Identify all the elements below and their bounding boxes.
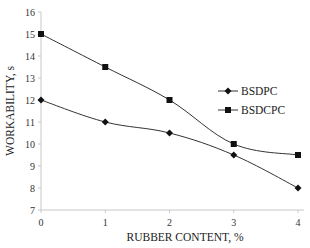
legend-item-bsdcpc: BSDCPC — [218, 104, 285, 116]
diamond-marker-icon — [295, 185, 302, 192]
square-marker-icon — [167, 97, 173, 103]
x-tick-label: 0 — [39, 217, 44, 228]
diamond-marker-icon — [38, 97, 45, 104]
square-marker-icon — [38, 31, 44, 37]
square-marker-icon — [102, 64, 108, 70]
y-axis: 78910111213141516 — [25, 7, 41, 216]
legend: BSDPCBSDCPC — [218, 85, 285, 116]
y-tick-label: 9 — [30, 161, 35, 172]
diamond-marker-icon — [166, 130, 173, 137]
legend-item-bsdpc: BSDPC — [218, 85, 278, 97]
y-tick-label: 15 — [25, 29, 35, 40]
diamond-marker-icon — [225, 88, 232, 95]
y-tick-label: 10 — [25, 139, 35, 150]
x-tick-label: 3 — [231, 217, 236, 228]
x-tick-label: 4 — [296, 217, 301, 228]
y-tick-label: 8 — [30, 183, 35, 194]
square-marker-icon — [295, 152, 301, 158]
diamond-marker-icon — [102, 119, 109, 126]
diamond-marker-icon — [230, 152, 237, 159]
legend-label: BSDCPC — [241, 104, 285, 116]
square-marker-icon — [231, 141, 237, 147]
y-tick-label: 12 — [25, 95, 35, 106]
square-marker-icon — [225, 107, 231, 113]
y-tick-label: 14 — [25, 51, 35, 62]
y-tick-label: 11 — [25, 117, 35, 128]
y-tick-label: 7 — [30, 205, 35, 216]
x-axis: 01234 — [39, 210, 305, 228]
y-tick-label: 16 — [25, 7, 35, 18]
y-tick-label: 13 — [25, 73, 35, 84]
line-chart: 78910111213141516 01234 WORKABILITY, s R… — [0, 0, 310, 248]
x-tick-label: 1 — [103, 217, 108, 228]
x-axis-label: RUBBER CONTENT, % — [126, 231, 243, 244]
legend-label: BSDPC — [241, 85, 278, 97]
y-axis-label: WORKABILITY, s — [4, 66, 17, 156]
x-tick-label: 2 — [167, 217, 172, 228]
